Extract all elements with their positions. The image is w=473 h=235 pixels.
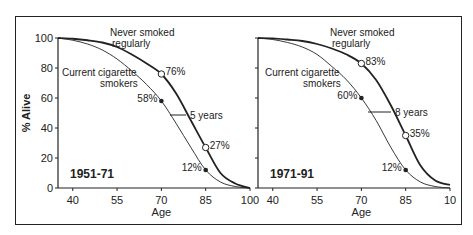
never-smoked-label: Never smoked bbox=[330, 27, 394, 38]
y-tick-label: 20 bbox=[41, 152, 53, 164]
percent-label: 12% bbox=[182, 162, 202, 173]
y-tick-label: 40 bbox=[41, 122, 53, 134]
open-circle-marker bbox=[202, 144, 208, 150]
filled-circle-marker bbox=[159, 99, 164, 104]
smokers-label: Current cigarette bbox=[265, 67, 340, 78]
period-label: 1971-91 bbox=[270, 167, 314, 181]
open-circle-marker bbox=[358, 60, 364, 66]
x-tick-label: 40 bbox=[67, 194, 79, 206]
x-tick-label: 55 bbox=[111, 194, 123, 206]
smokers-label: Current cigarette bbox=[62, 67, 137, 78]
never-smoked-label: regularly bbox=[112, 38, 150, 49]
x-tick-label: 55 bbox=[311, 194, 323, 206]
filled-circle-marker bbox=[359, 96, 364, 101]
never-smoked-label: regularly bbox=[332, 38, 370, 49]
percent-label: 35% bbox=[410, 128, 430, 139]
x-axis-label: Age bbox=[352, 206, 372, 218]
y-tick-label: 60 bbox=[41, 92, 53, 104]
percent-label: 83% bbox=[365, 56, 385, 67]
gap-label: 5 years bbox=[190, 110, 223, 121]
smokers-label: smokers bbox=[303, 78, 341, 89]
period-label: 1951-71 bbox=[70, 167, 114, 181]
percent-label: 12% bbox=[382, 162, 402, 173]
x-tick-label: 85 bbox=[200, 194, 212, 206]
x-tick-label: 100 bbox=[241, 194, 259, 206]
percent-label: 27% bbox=[210, 140, 230, 151]
open-circle-marker bbox=[158, 71, 164, 77]
x-tick-label: 40 bbox=[267, 194, 279, 206]
open-circle-marker bbox=[402, 132, 408, 138]
y-tick-label: 100 bbox=[35, 32, 53, 44]
smokers-label: smokers bbox=[100, 78, 138, 89]
percent-label: 76% bbox=[165, 66, 185, 77]
x-tick-label: 70 bbox=[155, 194, 167, 206]
x-tick-label: 85 bbox=[400, 194, 412, 206]
survival-charts: 02040608010040557085100Age% Alive76%58%2… bbox=[0, 0, 473, 235]
filled-circle-marker bbox=[203, 168, 208, 173]
never-smoked-label: Never smoked bbox=[110, 27, 174, 38]
percent-label: 58% bbox=[137, 93, 157, 104]
y-tick-label: 80 bbox=[41, 62, 53, 74]
y-tick-label: 0 bbox=[47, 182, 53, 194]
gap-label: 8 years bbox=[395, 107, 428, 118]
filled-circle-marker bbox=[403, 168, 408, 173]
y-axis-label: % Alive bbox=[20, 94, 32, 133]
x-tick-label: 10 bbox=[444, 194, 456, 206]
x-axis-label: Age bbox=[152, 206, 172, 218]
percent-label: 60% bbox=[337, 90, 357, 101]
x-tick-label: 70 bbox=[355, 194, 367, 206]
